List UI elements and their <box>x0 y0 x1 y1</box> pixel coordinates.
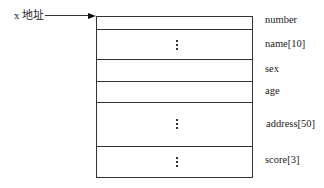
pointer-label: x 地址 <box>14 6 44 22</box>
field-label-score: score[3] <box>265 154 299 165</box>
pointer-arrow-line <box>45 15 92 16</box>
ellipsis-icon <box>176 117 178 131</box>
ellipsis-icon <box>176 38 178 52</box>
field-label-number: number <box>265 14 297 25</box>
struct-memory-block <box>96 16 253 178</box>
field-label-address: address[50] <box>266 118 315 129</box>
field-divider <box>96 146 253 147</box>
field-label-name: name[10] <box>265 38 305 49</box>
field-label-age: age <box>265 85 280 96</box>
field-divider <box>96 102 253 103</box>
field-label-sex: sex <box>265 63 279 74</box>
field-divider <box>96 29 253 30</box>
field-divider <box>96 59 253 60</box>
arrowhead-icon <box>88 13 96 19</box>
ellipsis-icon <box>176 155 178 169</box>
field-divider <box>96 81 253 82</box>
